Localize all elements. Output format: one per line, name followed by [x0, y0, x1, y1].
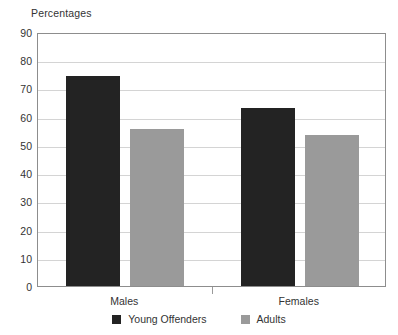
chart-title: Percentages [31, 7, 92, 19]
x-axis-tick-label: Males [110, 295, 138, 307]
bar-males-adults [130, 129, 184, 286]
legend-label: Adults [257, 313, 286, 325]
legend-entry-adults: Adults [241, 313, 286, 325]
bar-females-adults [305, 135, 359, 286]
x-axis-group-divider [212, 287, 213, 294]
chart-legend: Young OffendersAdults [0, 313, 398, 325]
bar-males-young-offenders [66, 76, 120, 286]
y-axis-tick-label: 20 [2, 225, 32, 237]
y-axis-tick-label: 90 [2, 27, 32, 39]
y-axis: 9080706050403020100 [0, 33, 32, 287]
y-axis-tick-label: 50 [2, 140, 32, 152]
y-axis-tick-label: 80 [2, 55, 32, 67]
bar-females-young-offenders [241, 108, 295, 286]
legend-label: Young Offenders [128, 313, 206, 325]
y-axis-tick-label: 0 [2, 281, 32, 293]
legend-swatch-icon [241, 315, 250, 324]
y-axis-tick-label: 10 [2, 253, 32, 265]
x-axis-tick-label: Females [279, 295, 319, 307]
y-axis-tick-label: 60 [2, 112, 32, 124]
y-axis-tick-label: 40 [2, 168, 32, 180]
percentages-bar-chart: Percentages 9080706050403020100 MalesFem… [0, 0, 398, 335]
plot-area [37, 33, 386, 287]
x-axis: MalesFemales [37, 287, 386, 311]
legend-swatch-icon [112, 315, 121, 324]
gridline [38, 62, 385, 63]
legend-entry-young-offenders: Young Offenders [112, 313, 206, 325]
y-axis-tick-label: 30 [2, 196, 32, 208]
y-axis-tick-label: 70 [2, 83, 32, 95]
